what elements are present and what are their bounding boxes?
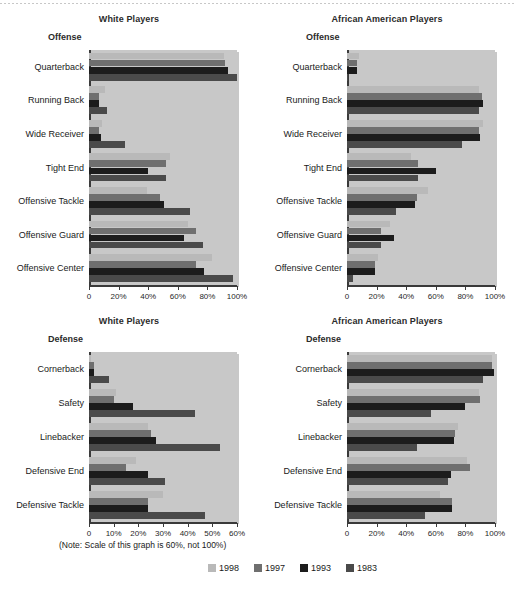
legend-label: 1993: [311, 563, 331, 573]
bar: [89, 505, 148, 512]
bar: [89, 194, 160, 201]
bar: [347, 261, 375, 268]
x-axis-tick-label: 0: [87, 529, 91, 538]
x-axis-tick: [377, 286, 378, 290]
bar: [347, 444, 417, 451]
x-axis-tick-label: 80%: [199, 292, 215, 301]
bar: [89, 362, 94, 369]
bar: [89, 410, 195, 417]
x-axis-tick: [138, 523, 139, 527]
bar: [89, 67, 228, 74]
x-axis-tick-label: 80%: [457, 292, 473, 301]
plot-area-offense-african-american: [347, 50, 495, 285]
x-axis-tick-label: 20%: [130, 529, 146, 538]
bar: [347, 67, 357, 74]
bar: [347, 471, 451, 478]
category-label: Cornerback: [258, 364, 342, 374]
legend-label: 1983: [357, 563, 377, 573]
category-label: Wide Receiver: [0, 129, 84, 139]
bar: [347, 268, 375, 275]
bar: [89, 127, 99, 134]
bar: [89, 498, 148, 505]
x-axis-tick: [212, 523, 213, 527]
bar: [89, 53, 224, 60]
bar: [347, 134, 480, 141]
x-axis-tick: [347, 523, 348, 527]
bar: [347, 107, 479, 114]
category-label: Linebacker: [258, 432, 342, 442]
legend-item: 1998: [208, 563, 239, 573]
bar: [89, 396, 114, 403]
bar: [89, 187, 147, 194]
legend-label: 1997: [265, 563, 285, 573]
x-axis-tick-label: 20%: [369, 529, 385, 538]
x-axis-line: [89, 285, 237, 287]
bar: [89, 208, 190, 215]
legend-label: 1998: [219, 563, 239, 573]
x-axis-tick-label: 10%: [106, 529, 122, 538]
bar: [347, 355, 492, 362]
x-axis-tick-label: 0: [87, 292, 91, 301]
bar: [347, 505, 452, 512]
bar: [347, 208, 396, 215]
x-axis-tick-label: 30%: [155, 529, 171, 538]
panel-group-label: Defense: [48, 334, 83, 344]
bar: [89, 228, 196, 235]
category-label: Offensive Center: [0, 263, 84, 273]
bar: [89, 355, 91, 362]
bar: [89, 153, 170, 160]
bar: [89, 261, 196, 268]
plot-area-defense-african-american: [347, 352, 495, 522]
x-axis-tick-label: 0: [345, 292, 349, 301]
x-axis-tick: [163, 523, 164, 527]
bar: [89, 201, 164, 208]
category-label: Safety: [258, 398, 342, 408]
figure-legend: 1998199719931983: [208, 563, 386, 573]
x-axis-tick: [377, 523, 378, 527]
bar: [89, 175, 166, 182]
bar: [89, 491, 163, 498]
bar: [89, 369, 94, 376]
bar: [89, 464, 126, 471]
x-axis-tick: [347, 286, 348, 290]
legend-swatch: [300, 564, 308, 572]
bar: [347, 100, 483, 107]
bar: [89, 60, 225, 67]
category-label: Defensive Tackle: [0, 500, 84, 510]
bar: [347, 235, 394, 242]
bar: [89, 242, 203, 249]
bar: [347, 60, 357, 67]
x-axis-tick-label: 40%: [180, 529, 196, 538]
bar: [89, 160, 166, 167]
x-axis-tick: [207, 286, 208, 290]
x-axis-line: [347, 285, 495, 287]
bar: [347, 430, 455, 437]
category-label: Running Back: [258, 95, 342, 105]
x-axis-tick: [465, 523, 466, 527]
panel-defense-african-american: African American Players Defense Cornerb…: [258, 316, 516, 546]
bar: [347, 153, 411, 160]
bar: [89, 478, 165, 485]
bar: [89, 221, 188, 228]
bar: [347, 410, 431, 417]
legend-swatch: [208, 564, 216, 572]
legend-item: 1983: [346, 563, 377, 573]
bar: [89, 107, 107, 114]
x-axis-tick-label: 40%: [398, 529, 414, 538]
bar: [347, 254, 378, 261]
x-axis-tick-label: 20%: [111, 292, 127, 301]
legend-item: 1993: [300, 563, 331, 573]
bar: [347, 498, 452, 505]
x-axis-tick-label: 0: [345, 529, 349, 538]
bar: [89, 74, 237, 81]
x-axis-tick: [148, 286, 149, 290]
bar: [347, 464, 470, 471]
x-axis-tick: [406, 523, 407, 527]
bar: [347, 423, 458, 430]
bar: [347, 389, 479, 396]
x-axis-tick: [89, 523, 90, 527]
x-axis-tick: [237, 523, 238, 527]
category-label: Tight End: [0, 163, 84, 173]
legend-item: 1997: [254, 563, 285, 573]
bar: [347, 403, 465, 410]
